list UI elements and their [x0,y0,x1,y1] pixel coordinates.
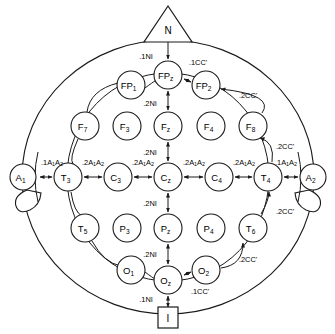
electrode-fp2[interactable]: FP2 [192,71,220,99]
electrode-t4[interactable]: T4 [254,163,282,191]
electrode-fpz[interactable]: FPz [154,61,182,89]
electrode-oz[interactable]: Oz [154,266,182,294]
electrode-f8[interactable]: F8 [239,112,267,140]
distance-label-d-nasion-fpz: .1NI [139,52,153,61]
electrode-a2[interactable]: A2 [300,164,326,190]
distance-label-d-fpz-fz: .2NI [143,99,157,108]
eeg-diagram-canvas: N I [0,0,335,334]
distance-label-d-t6-t4: .2CC' [276,207,295,216]
electrode-t6[interactable]: T6 [239,214,267,242]
electrode-c4[interactable]: C4 [205,163,233,191]
electrode-o1[interactable]: O1 [117,256,145,284]
electrode-t3[interactable]: T3 [54,163,82,191]
distance-label-d-fz-cz: .2NI [143,148,157,157]
distance-label-d-t3-c3: .2A1A2 [82,158,104,168]
electrode-t5[interactable]: T5 [71,214,99,242]
distance-label-d-o2-t6: .2CC' [239,255,258,264]
electrode-p4[interactable]: P4 [197,214,225,242]
distance-label-d-t4-a2: .1A1A2 [275,158,297,168]
electrode-a1[interactable]: A1 [10,164,36,190]
eeg-electrode-diagram: N I [0,0,335,334]
distance-label-d-fp2-f8: .2CC' [239,91,258,100]
electrode-c3[interactable]: C3 [104,163,132,191]
electrode-f4[interactable]: F4 [197,112,225,140]
electrode-o2[interactable]: O2 [192,256,220,284]
electrode-pz[interactable]: Pz [154,214,182,242]
nasion-label: N [164,25,171,36]
inion-label: I [167,313,170,324]
distance-label-d-cz-c4: .2A1A2 [183,158,205,168]
electrode-f3[interactable]: F3 [113,112,141,140]
electrode-f7[interactable]: F7 [71,112,99,140]
electrode-p3[interactable]: P3 [113,214,141,242]
electrode-cz[interactable]: Cz [154,163,182,191]
arc-fp1-fpz-link [145,81,155,88]
distance-label-d-a1-t3: .1A1A2 [41,158,63,168]
distance-label-d-pz-oz: .2NI [143,250,157,259]
arc-o1-oz [145,272,155,279]
distance-label-d-oz-inion: .1NI [139,295,153,304]
electrode-fp1[interactable]: FP1 [117,71,145,99]
ear-left [15,190,41,212]
distance-label-d-oz-o2: .1CC' [191,287,210,296]
distance-label-d-fpz-fp2: .1CC' [189,58,208,67]
distance-label-d-f8-t4: .2CC' [276,142,295,151]
distance-label-d-c3-cz: .2A1A2 [132,158,154,168]
electrode-fz[interactable]: Fz [154,112,182,140]
distance-label-d-cz-pz: .2NI [143,199,157,208]
distance-label-d-c4-t4: .2A1A2 [233,158,255,168]
ear-right [295,190,321,212]
arc-f8-t4 [260,138,273,162]
arc-t5-o1 [92,241,121,266]
